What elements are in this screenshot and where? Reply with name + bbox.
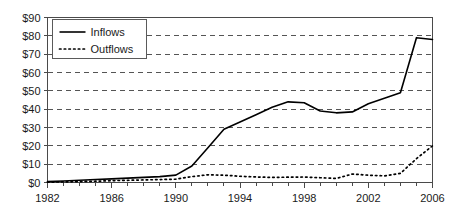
legend-label-outflows: Outflows bbox=[91, 43, 134, 55]
legend-label-inflows: Inflows bbox=[91, 26, 126, 38]
y-tick-label-90: $90 bbox=[22, 12, 40, 24]
chart-legend: InflowsOutflows bbox=[53, 20, 147, 59]
series-group bbox=[48, 38, 433, 182]
y-tick-label-70: $70 bbox=[22, 48, 40, 60]
chart-container: $0$10$20$30$40$50$60$70$80$90 1982198619… bbox=[0, 0, 456, 218]
y-tick-label-0: $0 bbox=[28, 177, 40, 189]
y-tick-label-50: $50 bbox=[22, 85, 40, 97]
y-tick-label-60: $60 bbox=[22, 67, 40, 79]
x-axis-ticks bbox=[48, 183, 433, 188]
line-chart: $0$10$20$30$40$50$60$70$80$90 1982198619… bbox=[0, 0, 456, 218]
x-tick-label-1986: 1986 bbox=[99, 192, 123, 204]
y-tick-label-30: $30 bbox=[22, 122, 40, 134]
y-tick-label-80: $80 bbox=[22, 30, 40, 42]
y-tick-label-10: $10 bbox=[22, 158, 40, 170]
y-tick-label-40: $40 bbox=[22, 103, 40, 115]
x-tick-label-2002: 2002 bbox=[356, 192, 380, 204]
x-tick-label-2006: 2006 bbox=[420, 192, 444, 204]
y-axis-ticks bbox=[44, 18, 48, 183]
x-tick-label-1994: 1994 bbox=[228, 192, 252, 204]
x-tick-label-1998: 1998 bbox=[292, 192, 316, 204]
y-axis-tick-labels: $0$10$20$30$40$50$60$70$80$90 bbox=[22, 12, 40, 189]
y-tick-label-20: $20 bbox=[22, 140, 40, 152]
x-tick-label-1990: 1990 bbox=[164, 192, 188, 204]
x-axis-tick-labels: 1982198619901994199820022006 bbox=[35, 192, 444, 204]
x-tick-label-1982: 1982 bbox=[35, 192, 59, 204]
